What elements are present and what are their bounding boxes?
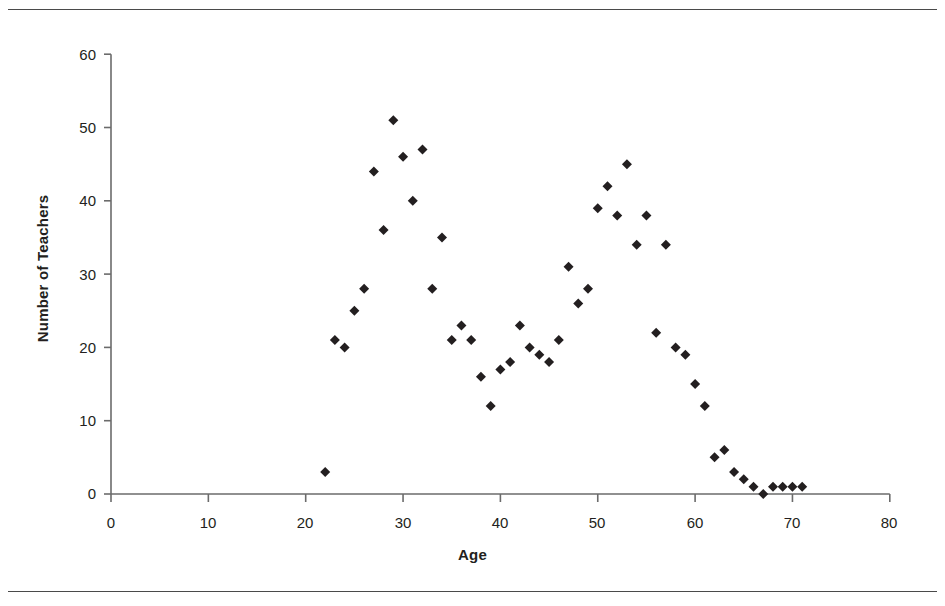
y-tick-label-40: 40 (62, 192, 96, 209)
data-point (787, 482, 797, 492)
data-point (778, 482, 788, 492)
data-point (388, 115, 398, 125)
data-point (749, 482, 759, 492)
x-tick-label-40: 40 (483, 514, 517, 531)
y-tick-label-30: 30 (62, 266, 96, 283)
data-point (447, 335, 457, 345)
data-point (797, 482, 807, 492)
x-tick-label-0: 0 (94, 514, 128, 531)
x-axis-title: Age (0, 546, 945, 563)
y-tick-label-0: 0 (62, 485, 96, 502)
data-point (612, 210, 622, 220)
data-point (602, 181, 612, 191)
data-point (418, 144, 428, 154)
data-point (349, 306, 359, 316)
data-point (641, 210, 651, 220)
scatter-chart-figure: 60 50 40 30 20 10 0 0 10 20 30 40 50 60 … (0, 10, 945, 590)
data-point (690, 379, 700, 389)
data-point (622, 159, 632, 169)
data-point (758, 489, 768, 499)
y-tick-label-60: 60 (62, 46, 96, 63)
data-point (379, 225, 389, 235)
y-tick-label-10: 10 (62, 412, 96, 429)
data-point (330, 335, 340, 345)
x-tick-label-60: 60 (678, 514, 712, 531)
data-point (505, 357, 515, 367)
x-tick-label-50: 50 (580, 514, 614, 531)
data-point (437, 232, 447, 242)
data-point (710, 452, 720, 462)
data-point (369, 166, 379, 176)
page-rule-bottom (8, 591, 937, 592)
data-point (340, 342, 350, 352)
data-point (729, 467, 739, 477)
data-point (320, 467, 330, 477)
data-point (768, 482, 778, 492)
data-point (427, 284, 437, 294)
data-point (593, 203, 603, 213)
data-point (583, 284, 593, 294)
data-point (554, 335, 564, 345)
data-point (359, 284, 369, 294)
data-point (476, 372, 486, 382)
scatter-plot-canvas (0, 10, 945, 590)
data-point (739, 474, 749, 484)
y-tick-label-20: 20 (62, 339, 96, 356)
data-point (495, 364, 505, 374)
x-tick-label-80: 80 (872, 514, 906, 531)
data-points-layer (320, 115, 807, 499)
data-point (632, 240, 642, 250)
y-tick-label-50: 50 (62, 119, 96, 136)
x-tick-label-10: 10 (191, 514, 225, 531)
data-point (661, 240, 671, 250)
x-tick-label-20: 20 (288, 514, 322, 531)
data-point (671, 342, 681, 352)
data-point (651, 328, 661, 338)
data-point (534, 350, 544, 360)
data-point (544, 357, 554, 367)
data-point (398, 152, 408, 162)
data-point (700, 401, 710, 411)
x-tick-label-70: 70 (775, 514, 809, 531)
x-tick-label-30: 30 (386, 514, 420, 531)
data-point (515, 320, 525, 330)
data-point (525, 342, 535, 352)
data-point (466, 335, 476, 345)
data-point (564, 262, 574, 272)
axes-layer (104, 54, 890, 502)
data-point (408, 196, 418, 206)
data-point (486, 401, 496, 411)
y-axis-title: Number of Teachers (34, 174, 51, 364)
data-point (456, 320, 466, 330)
data-point (719, 445, 729, 455)
data-point (680, 350, 690, 360)
data-point (573, 298, 583, 308)
